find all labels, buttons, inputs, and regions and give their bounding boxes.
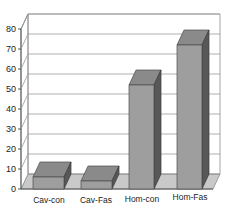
bar-cav-con-front	[33, 177, 64, 189]
x-label-hom-con: Hom-con	[125, 194, 160, 204]
bar-cav-fas[interactable]	[81, 166, 119, 189]
x-label-cav-fas: Cav-Fas	[80, 195, 112, 205]
y-tick-label-70: 70	[6, 44, 16, 54]
bar-hom-fas-side	[202, 30, 209, 189]
x-label-hom-fas: Hom-Fas	[173, 192, 208, 202]
bar-hom-con-front	[129, 85, 154, 189]
y-tick-label-40: 40	[6, 104, 16, 114]
x-axis-category-labels: Cav-con Cav-Fas Hom-con Hom-Fas	[33, 192, 207, 205]
bar-cav-con[interactable]	[33, 162, 71, 189]
y-tick-label-30: 30	[6, 124, 16, 134]
bar-chart-figure: 80 70 60 50 40 30 20 10 0	[0, 0, 228, 215]
y-tick-label-10: 10	[6, 164, 16, 174]
chart-canvas: 80 70 60 50 40 30 20 10 0	[0, 0, 228, 215]
bar-hom-fas[interactable]	[177, 30, 209, 189]
y-tick-label-50: 50	[6, 84, 16, 94]
x-label-cav-con: Cav-con	[33, 195, 65, 205]
bar-cav-fas-front	[81, 181, 112, 189]
y-tick-label-0: 0	[11, 184, 16, 194]
bar-hom-con[interactable]	[129, 70, 161, 189]
y-tick-label-60: 60	[6, 64, 16, 74]
bar-hom-fas-front	[177, 45, 202, 189]
y-axis-tick-labels: 80 70 60 50 40 30 20 10 0	[6, 24, 16, 194]
bar-hom-con-side	[154, 70, 161, 189]
y-tick-label-20: 20	[6, 144, 16, 154]
y-tick-label-80: 80	[6, 24, 16, 34]
